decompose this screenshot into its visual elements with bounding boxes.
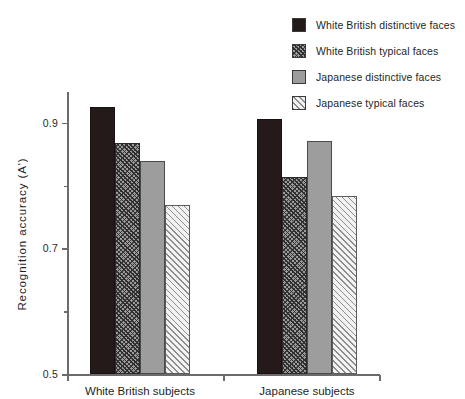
- legend-item[interactable]: Japanese distinctive faces: [292, 64, 460, 90]
- y-axis-tick-label: 0.9: [43, 117, 58, 129]
- legend-swatch-icon: [292, 96, 306, 110]
- y-axis-tick-label: 0.5: [43, 368, 58, 380]
- chart-legend: White British distinctive facesWhite Bri…: [292, 12, 460, 116]
- y-axis-tick-label: 0.7: [43, 242, 58, 254]
- bar: [332, 196, 357, 374]
- legend-item-label: Japanese typical faces: [316, 97, 424, 109]
- y-axis-title: Recognition accuracy (A'): [14, 92, 30, 375]
- legend-item-label: White British distinctive faces: [316, 19, 455, 31]
- x-axis-tick: [223, 375, 225, 381]
- legend-item-label: White British typical faces: [316, 45, 438, 57]
- y-axis-tick: 0.9: [62, 123, 67, 125]
- plot-area: 0.90.70.5 White British subjectsJapanese…: [67, 92, 380, 375]
- y-axis-tick: [64, 186, 67, 188]
- bar: [140, 161, 165, 374]
- legend-item[interactable]: White British typical faces: [292, 38, 460, 64]
- y-axis-line: [67, 92, 69, 375]
- legend-swatch-icon: [292, 18, 306, 32]
- bar-chart-figure: Recognition accuracy (A') 0.90.70.5 Whit…: [0, 0, 465, 399]
- y-axis-tick: [64, 311, 67, 313]
- bar: [90, 107, 115, 374]
- legend-item[interactable]: Japanese typical faces: [292, 90, 460, 116]
- bar: [115, 143, 140, 374]
- legend-item[interactable]: White British distinctive faces: [292, 12, 460, 38]
- x-axis-tick: [67, 375, 69, 381]
- x-axis-group-label: Japanese subjects: [259, 385, 354, 397]
- y-axis-tick: 0.7: [62, 248, 67, 250]
- y-axis-title-text: Recognition accuracy (A'): [16, 157, 28, 310]
- bar: [165, 205, 190, 374]
- legend-swatch-icon: [292, 44, 306, 58]
- legend-item-label: Japanese distinctive faces: [316, 71, 441, 83]
- x-axis-group-label: White British subjects: [85, 385, 195, 397]
- x-axis-tick: [379, 375, 381, 381]
- bar: [257, 119, 282, 374]
- legend-swatch-icon: [292, 70, 306, 84]
- bar: [282, 177, 307, 374]
- bar: [307, 141, 332, 374]
